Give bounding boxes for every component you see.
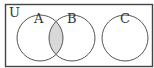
universe-label: U bbox=[9, 5, 20, 20]
set-c-label: C bbox=[120, 11, 130, 26]
set-a-label: A bbox=[33, 11, 44, 26]
set-b-label: B bbox=[67, 11, 77, 26]
venn-svg: U A B C bbox=[0, 0, 154, 68]
venn-diagram: U A B C bbox=[0, 0, 154, 68]
